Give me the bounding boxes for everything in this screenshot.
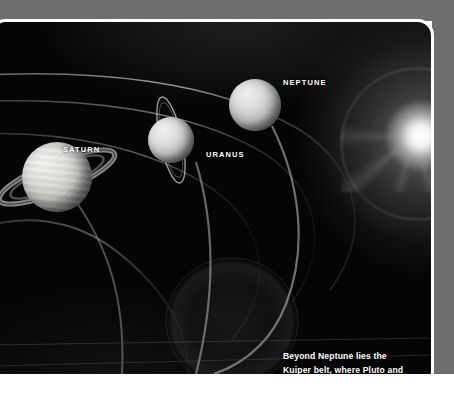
page-margin-bottom [0,374,454,405]
planet-uranus [148,117,194,163]
planet-neptune [229,79,281,131]
page-margin-bottom-right [430,384,454,405]
solar-system-illustration: SATURN URANUS NEPTUNE Beyond Neptune lie… [0,22,431,374]
orbit-inner-2 [62,182,122,374]
page-backdrop-right [432,0,454,384]
label-uranus: URANUS [206,150,245,159]
caption-line-2: Kuiper belt, where Pluto and [283,364,431,375]
kuiper-belt-disc [164,256,300,374]
caption-line-1: Beyond Neptune lies the [283,350,431,364]
kuiper-belt-caption: Beyond Neptune lies the Kuiper belt, whe… [283,350,431,374]
label-saturn: SATURN [63,145,100,154]
page-backdrop-top [0,0,454,21]
textbook-page: SATURN URANUS NEPTUNE Beyond Neptune lie… [0,0,454,405]
orbit-inner-1 [0,220,188,374]
label-neptune: NEPTUNE [283,78,327,87]
